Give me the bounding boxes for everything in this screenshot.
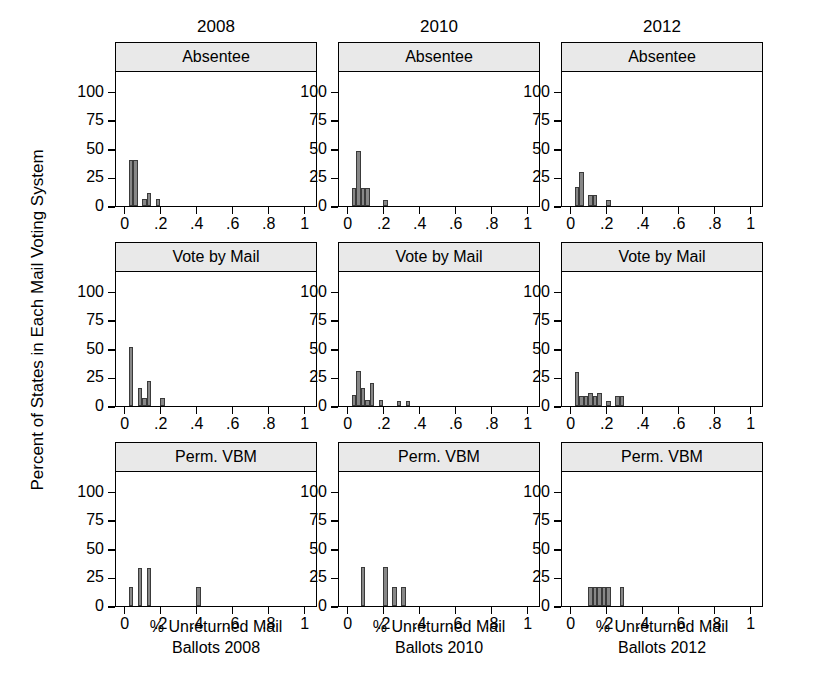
histogram-bar <box>147 381 151 406</box>
y-tick-label: 75 <box>283 512 327 528</box>
x-tick-mark <box>124 607 126 614</box>
x-tick-mark <box>232 407 234 414</box>
histogram-bar <box>133 160 137 206</box>
histogram-bar <box>379 400 383 406</box>
x-tick-mark <box>347 607 349 614</box>
y-tick-label: 100 <box>60 84 104 100</box>
y-tick-mark <box>108 492 115 494</box>
y-tick-mark <box>554 149 561 151</box>
x-tick-label: .2 <box>587 415 627 433</box>
y-tick-label: 25 <box>506 569 550 585</box>
plot-area <box>561 72 763 207</box>
x-tick-label: .2 <box>364 415 404 433</box>
histogram-bar <box>606 200 610 206</box>
y-tick-mark <box>331 292 338 294</box>
y-tick-label: 0 <box>60 198 104 214</box>
x-tick-label: .6 <box>659 415 699 433</box>
x-tick-mark <box>196 607 198 614</box>
y-tick-mark <box>331 120 338 122</box>
x-tick-mark <box>606 607 608 614</box>
x-tick-label: .8 <box>249 415 289 433</box>
y-tick-label: 100 <box>283 484 327 500</box>
histogram-bar <box>129 587 133 606</box>
bars-group <box>562 272 762 406</box>
y-tick-label: 0 <box>283 598 327 614</box>
y-tick-mark <box>554 92 561 94</box>
y-tick-mark <box>331 549 338 551</box>
y-tick-label: 100 <box>283 284 327 300</box>
x-tick-mark <box>714 407 716 414</box>
x-tick-mark <box>383 207 385 214</box>
panel-grid: 200820102012Absentee02550751000.2.4.6.81… <box>88 16 804 676</box>
y-tick-mark <box>108 149 115 151</box>
x-tick-mark <box>642 607 644 614</box>
panel-strip-label: Vote by Mail <box>561 242 763 272</box>
x-tick-mark <box>383 407 385 414</box>
x-tick-mark <box>642 407 644 414</box>
y-tick-mark <box>108 378 115 380</box>
histogram-bar <box>147 568 151 606</box>
y-tick-mark <box>331 578 338 580</box>
y-tick-label: 0 <box>506 398 550 414</box>
x-tick-mark <box>347 207 349 214</box>
x-tick-mark <box>455 407 457 414</box>
x-tick-label: .8 <box>472 415 512 433</box>
y-tick-mark <box>331 178 338 180</box>
x-tick-mark <box>455 607 457 614</box>
x-tick-mark <box>491 607 493 614</box>
histogram-bar <box>597 393 601 406</box>
y-tick-mark <box>331 206 338 208</box>
y-tick-label: 25 <box>506 369 550 385</box>
y-tick-label: 50 <box>283 141 327 157</box>
x-tick-label: .6 <box>213 215 253 233</box>
y-tick-mark <box>554 520 561 522</box>
x-tick-label: 1 <box>285 415 325 433</box>
y-tick-mark <box>554 292 561 294</box>
y-tick-label: 50 <box>506 141 550 157</box>
y-tick-label: 0 <box>60 598 104 614</box>
panel-strip-label: Absentee <box>338 42 540 72</box>
histogram-bar <box>129 347 133 406</box>
y-tick-mark <box>554 606 561 608</box>
x-tick-mark <box>750 607 752 614</box>
y-tick-mark <box>331 92 338 94</box>
y-tick-label: 25 <box>283 369 327 385</box>
x-axis-title-2008: % Unreturned MailBallots 2008 <box>115 616 317 658</box>
y-tick-label: 75 <box>506 312 550 328</box>
y-tick-label: 100 <box>506 84 550 100</box>
y-tick-mark <box>331 492 338 494</box>
y-tick-mark <box>331 320 338 322</box>
x-axis-title-line: % Unreturned Mail <box>561 616 763 637</box>
x-tick-mark <box>347 407 349 414</box>
x-tick-mark <box>455 207 457 214</box>
histogram-bar <box>370 383 374 406</box>
x-tick-label: 1 <box>285 215 325 233</box>
x-tick-mark <box>160 207 162 214</box>
x-tick-mark <box>419 607 421 614</box>
y-tick-label: 25 <box>60 569 104 585</box>
histogram-bar <box>620 396 624 406</box>
y-tick-label: 0 <box>506 598 550 614</box>
x-tick-mark <box>268 207 270 214</box>
y-tick-label: 75 <box>506 512 550 528</box>
y-tick-label: 100 <box>60 284 104 300</box>
y-tick-label: 50 <box>283 541 327 557</box>
y-tick-label: 0 <box>283 198 327 214</box>
y-tick-mark <box>108 178 115 180</box>
column-title-2010: 2010 <box>338 16 540 38</box>
column-title-2012: 2012 <box>561 16 763 38</box>
y-tick-mark <box>108 520 115 522</box>
y-tick-mark <box>108 320 115 322</box>
x-tick-label: 1 <box>731 215 771 233</box>
panel-strip-label: Perm. VBM <box>561 442 763 472</box>
y-tick-label: 75 <box>283 312 327 328</box>
x-tick-label: .2 <box>364 215 404 233</box>
x-tick-label: .6 <box>436 215 476 233</box>
x-tick-mark <box>160 407 162 414</box>
x-tick-mark <box>268 607 270 614</box>
x-tick-mark <box>232 607 234 614</box>
x-tick-label: .4 <box>400 415 440 433</box>
x-axis-title-2010: % Unreturned MailBallots 2010 <box>338 616 540 658</box>
column-title-2008: 2008 <box>115 16 317 38</box>
x-tick-label: .4 <box>177 415 217 433</box>
